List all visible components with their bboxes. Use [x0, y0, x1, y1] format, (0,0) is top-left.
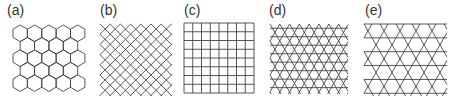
square-lattice	[180, 0, 265, 101]
panel-e: (e)	[355, 0, 456, 101]
panel-c: (c)	[180, 0, 265, 101]
panel-b: (b)	[92, 0, 180, 101]
panel-a: (a)	[0, 0, 92, 101]
panel-d: (d)	[265, 0, 355, 101]
honeycomb-lattice	[0, 0, 92, 101]
kagome-lattice	[355, 0, 456, 101]
triangular-lattice	[265, 0, 355, 101]
diagonal-square-lattice	[92, 0, 180, 101]
